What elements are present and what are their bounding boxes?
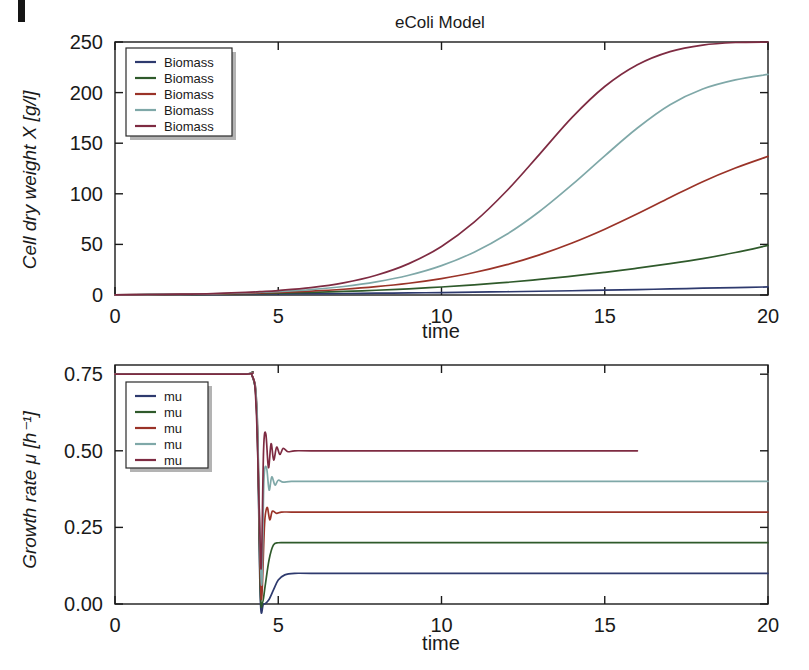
series-line-2 [115,156,768,294]
y-tick-label: 0.75 [64,363,103,385]
series-line-1 [115,372,768,607]
y-tick-label: 0 [92,284,103,306]
y-tick-label: 0.50 [64,440,103,462]
x-axis-label-growth: time [422,632,460,654]
legend-label-4: Biomass [164,119,214,134]
axis-ticks-growth [115,365,768,604]
series-line-0 [115,372,768,613]
legend-label-3: Biomass [164,103,214,118]
figure-canvas: eColi Model Cell dry weight X [g/l] 0501… [0,0,809,670]
chart-growth-rate: Growth rate μ [h⁻¹] 0.000.250.500.75 051… [19,363,779,654]
chart-title-biomass: eColi Model [395,13,485,32]
plot-frame-growth [115,365,768,604]
legend-label-1: Biomass [164,71,214,86]
y-tick-label: 150 [70,132,103,154]
y-tick-label: 200 [70,82,103,104]
series-line-1 [115,245,768,294]
x-tick-label: 20 [757,614,779,636]
y-axis-label-biomass: Cell dry weight X [g/l] [19,90,40,269]
chart-biomass: eColi Model Cell dry weight X [g/l] 0501… [19,13,779,342]
legend-label-0: Biomass [164,55,214,70]
x-tick-label: 5 [273,305,284,327]
x-tick-label: 5 [273,614,284,636]
y-tick-label: 50 [81,233,103,255]
x-axis-label-biomass: time [422,320,460,342]
x-tick-label: 0 [109,305,120,327]
y-tick-labels-biomass: 050100150200250 [70,31,103,306]
legend-biomass[interactable]: BiomassBiomassBiomassBiomassBiomass [126,48,236,140]
y-tick-label: 100 [70,183,103,205]
series-line-2 [115,372,768,599]
legend-label-2: mu [164,421,182,436]
legend-label-2: Biomass [164,87,214,102]
legend-label-3: mu [164,437,182,452]
legend-growth-rate[interactable]: mumumumumu [126,382,212,472]
x-tick-label: 0 [109,614,120,636]
x-tick-label: 20 [757,305,779,327]
y-tick-labels-growth: 0.000.250.500.75 [64,363,103,615]
x-tick-label: 15 [594,305,616,327]
legend-label-1: mu [164,405,182,420]
series-group-growth [115,372,768,613]
y-tick-label: 0.00 [64,593,103,615]
y-tick-label: 0.25 [64,516,103,538]
y-tick-label: 250 [70,31,103,53]
y-axis-label-growth: Growth rate μ [h⁻¹] [19,410,40,568]
x-tick-label: 15 [594,614,616,636]
legend-label-4: mu [164,453,182,468]
figure-page: eColi Model Cell dry weight X [g/l] 0501… [0,0,809,670]
legend-label-0: mu [164,389,182,404]
series-line-3 [115,373,768,586]
